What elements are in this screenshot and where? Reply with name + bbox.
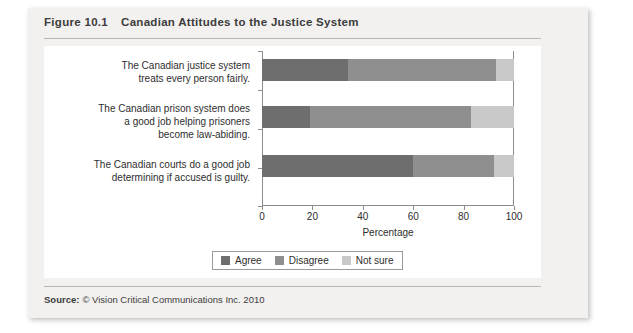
y-tick-mark [258, 206, 262, 207]
category-label-prison-system-law-abiding: The Canadian prison system does a good j… [45, 102, 250, 141]
x-axis-title: Percentage [262, 227, 514, 238]
x-tick-label: 100 [506, 211, 523, 222]
figure-card: Figure 10.1Canadian Attitudes to the Jus… [28, 8, 588, 318]
x-tick-mark [413, 206, 414, 210]
legend-item-agree[interactable]: Agree [221, 255, 262, 266]
source-line: Source:© Vision Critical Communications … [44, 294, 265, 305]
bar-row [262, 106, 514, 128]
x-tick-label: 80 [458, 211, 469, 222]
y-tick-mark [258, 90, 262, 91]
figure-caption: Figure 10.1Canadian Attitudes to the Jus… [44, 16, 359, 28]
x-tick-label: 0 [259, 211, 265, 222]
bar-segment-not-sure [496, 59, 514, 81]
bar-row [262, 155, 514, 177]
bar-segment-disagree [348, 59, 497, 81]
bar-segment-agree [262, 59, 348, 81]
x-tick-mark [514, 206, 515, 210]
source-text: © Vision Critical Communications Inc. 20… [82, 294, 264, 305]
y-tick-mark [258, 168, 262, 169]
legend-item-not-sure[interactable]: Not sure [342, 255, 394, 266]
source-label: Source: [44, 294, 79, 305]
bar-segment-not-sure [471, 106, 514, 128]
legend-swatch [342, 256, 351, 265]
x-tick-label: 60 [408, 211, 419, 222]
footer-divider [44, 286, 541, 287]
x-tick-mark [464, 206, 465, 210]
category-label-justice-system-fair: The Canadian justice system treats every… [45, 59, 250, 85]
legend-swatch [221, 256, 230, 265]
header-divider [44, 38, 541, 39]
x-tick-label: 20 [307, 211, 318, 222]
bar-row [262, 59, 514, 81]
category-label-line: treats every person fairly. [45, 72, 250, 85]
bar-segment-agree [262, 155, 413, 177]
x-tick-mark [312, 206, 313, 210]
category-label-line: become law-abiding. [45, 128, 250, 141]
legend-item-disagree[interactable]: Disagree [275, 255, 329, 266]
chart-plate: The Canadian justice system treats every… [44, 46, 541, 278]
legend-swatch [275, 256, 284, 265]
bar-segment-disagree [310, 106, 471, 128]
x-tick-mark [262, 206, 263, 210]
bar-segment-agree [262, 106, 310, 128]
category-label-line: a good job helping prisoners [45, 115, 250, 128]
legend-label: Not sure [356, 255, 394, 266]
figure-number: Figure 10.1 [44, 16, 108, 28]
legend-label: Disagree [289, 255, 329, 266]
category-label-line: The Canadian courts do a good job [45, 158, 250, 171]
y-tick-mark [258, 129, 262, 130]
category-label-line: The Canadian prison system does [45, 102, 250, 115]
legend-label: Agree [235, 255, 262, 266]
x-tick-label: 40 [357, 211, 368, 222]
plot-area: 020406080100 Percentage [262, 51, 514, 206]
figure-header: Figure 10.1Canadian Attitudes to the Jus… [28, 8, 588, 42]
bar-segment-disagree [413, 155, 494, 177]
y-tick-mark [258, 51, 262, 52]
category-label-line: The Canadian justice system [45, 59, 250, 72]
category-axis-labels: The Canadian justice system treats every… [44, 46, 256, 196]
category-label-courts-determining-guilt: The Canadian courts do a good job determ… [45, 158, 250, 184]
x-tick-mark [363, 206, 364, 210]
category-label-line: determining if accused is guilty. [45, 171, 250, 184]
chart-legend: AgreeDisagreeNot sure [212, 251, 403, 270]
figure-title: Canadian Attitudes to the Justice System [121, 16, 359, 28]
bar-segment-not-sure [494, 155, 514, 177]
